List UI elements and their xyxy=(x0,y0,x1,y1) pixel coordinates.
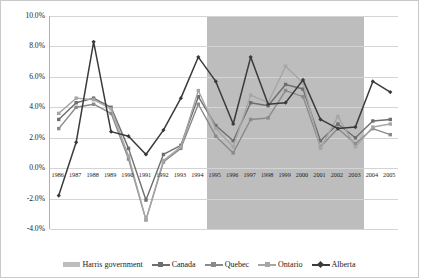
legend-label: Harris government xyxy=(82,260,142,269)
chart-container: 10.0%8.0%6.0%4.0%2.0%0.0%-2.0%-4.0% 1986… xyxy=(0,0,419,278)
data-point xyxy=(371,125,374,128)
data-point xyxy=(214,127,217,130)
x-axis-tick-1988: 1988 xyxy=(86,171,98,178)
legend-label: Alberta xyxy=(332,260,356,269)
data-point xyxy=(389,118,392,121)
x-axis-tick-1991: 1991 xyxy=(139,171,151,178)
data-point xyxy=(144,218,147,221)
legend-swatch-area-icon xyxy=(63,262,80,267)
x-axis-tick-1997: 1997 xyxy=(243,171,255,178)
data-point xyxy=(179,145,182,148)
data-point xyxy=(162,159,165,162)
data-point xyxy=(284,65,287,68)
y-axis-tick-1: 8.0% xyxy=(5,41,45,50)
legend-item-harris-government[interactable]: Harris government xyxy=(63,260,142,269)
data-point xyxy=(336,115,339,118)
y-axis-tick-0: 10.0% xyxy=(5,11,45,20)
data-point xyxy=(197,103,200,106)
y-axis-tick-2: 6.0% xyxy=(5,72,45,81)
series-canada xyxy=(57,83,392,202)
legend-item-quebec[interactable]: Quebec xyxy=(205,260,249,269)
x-axis-tick-2001: 2001 xyxy=(313,171,325,178)
x-axis-tick-2002: 2002 xyxy=(331,171,343,178)
legend-swatch-line-icon xyxy=(312,261,330,268)
x-axis-tick-1998: 1998 xyxy=(261,171,273,178)
legend-swatch-line-icon xyxy=(258,261,276,268)
data-point xyxy=(232,151,235,154)
data-point xyxy=(319,147,322,150)
data-point xyxy=(109,130,113,134)
data-point xyxy=(92,40,96,44)
data-point xyxy=(371,119,374,122)
plot-area xyxy=(49,16,398,229)
x-axis-tick-1999: 1999 xyxy=(278,171,290,178)
chart-legend: Harris governmentCanadaQuebecOntarioAlbe… xyxy=(1,260,418,269)
x-axis-tick-1993: 1993 xyxy=(174,171,186,178)
data-point xyxy=(57,127,60,130)
x-axis-tick-1994: 1994 xyxy=(191,171,203,178)
y-axis-tick-4: 2.0% xyxy=(5,133,45,142)
x-axis-tick-2003: 2003 xyxy=(348,171,360,178)
data-point xyxy=(354,136,357,139)
x-axis-tick-2004: 2004 xyxy=(366,171,378,178)
data-point xyxy=(57,193,61,197)
legend-label: Canada xyxy=(172,260,196,269)
data-point xyxy=(249,101,252,104)
data-point xyxy=(74,140,78,144)
data-point xyxy=(144,198,147,201)
data-point xyxy=(389,133,392,136)
data-point xyxy=(197,89,200,92)
data-point xyxy=(232,145,235,148)
x-axis-tick-1996: 1996 xyxy=(226,171,238,178)
data-point xyxy=(92,98,95,101)
gridline xyxy=(50,229,398,230)
data-point xyxy=(336,122,339,125)
x-axis-tick-2000: 2000 xyxy=(296,171,308,178)
series-ontario xyxy=(57,65,392,222)
data-point xyxy=(284,89,287,92)
x-axis-tick-2005: 2005 xyxy=(383,171,395,178)
series-lines xyxy=(50,16,399,229)
legend-item-canada[interactable]: Canada xyxy=(152,260,196,269)
legend-swatch-line-icon xyxy=(205,261,223,268)
data-point xyxy=(231,122,235,126)
y-axis-tick-3: 4.0% xyxy=(5,102,45,111)
x-axis-tick-1995: 1995 xyxy=(209,171,221,178)
data-point xyxy=(249,118,252,121)
x-axis-tick-1986: 1986 xyxy=(52,171,64,178)
x-axis-tick-1990: 1990 xyxy=(121,171,133,178)
data-point xyxy=(57,112,60,115)
x-axis-tick-1987: 1987 xyxy=(69,171,81,178)
legend-label: Quebec xyxy=(225,260,249,269)
data-point xyxy=(353,125,357,129)
data-point xyxy=(284,83,287,86)
legend-item-ontario[interactable]: Ontario xyxy=(258,260,302,269)
data-point xyxy=(92,103,95,106)
x-axis-tick-1992: 1992 xyxy=(156,171,168,178)
data-point xyxy=(214,134,217,137)
data-point xyxy=(127,154,130,157)
data-point xyxy=(57,118,60,121)
data-point xyxy=(74,101,77,104)
y-axis-tick-7: -4.0% xyxy=(5,224,45,233)
data-point xyxy=(249,93,252,96)
data-point xyxy=(109,107,112,110)
data-point xyxy=(354,145,357,148)
data-point xyxy=(249,55,253,59)
data-point xyxy=(127,147,130,150)
y-axis-tick-6: -2.0% xyxy=(5,194,45,203)
data-point xyxy=(389,122,392,125)
data-point xyxy=(266,116,269,119)
data-point xyxy=(301,95,304,98)
y-axis-tick-5: 0.0% xyxy=(5,163,45,172)
legend-swatch-line-icon xyxy=(152,261,170,268)
legend-item-alberta[interactable]: Alberta xyxy=(312,260,356,269)
x-axis-tick-1989: 1989 xyxy=(104,171,116,178)
data-point xyxy=(74,106,77,109)
data-point xyxy=(74,96,77,99)
legend-label: Ontario xyxy=(278,260,302,269)
data-point xyxy=(162,153,165,156)
